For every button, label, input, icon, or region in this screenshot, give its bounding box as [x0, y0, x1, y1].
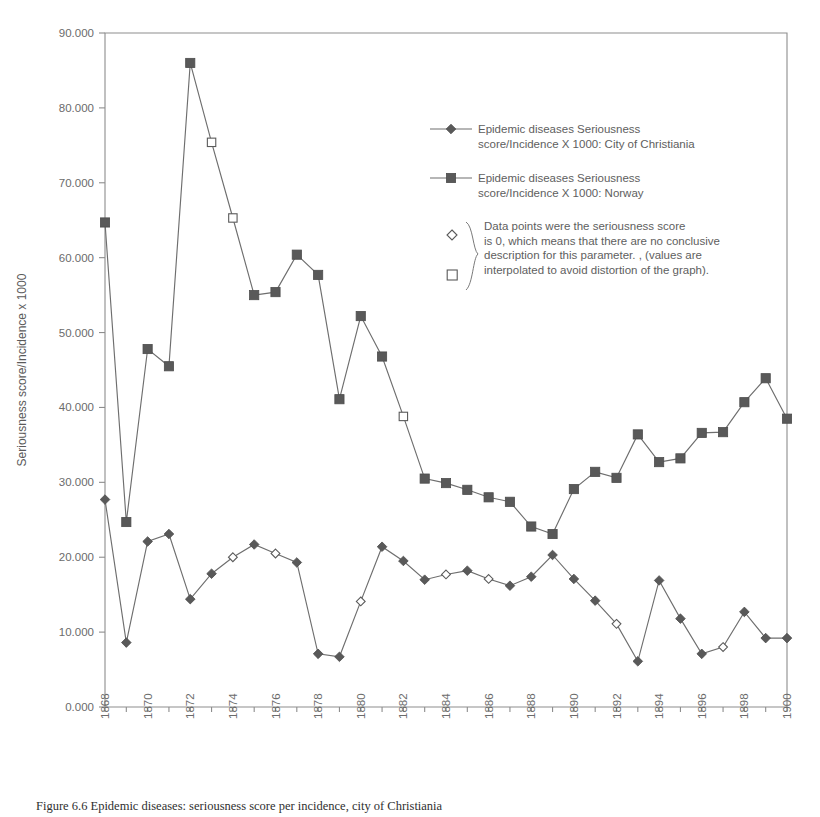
chart-legend: Epidemic diseases Seriousnessscore/Incid… [430, 123, 720, 290]
legend-entry-0: Epidemic diseases Seriousnessscore/Incid… [430, 123, 695, 150]
x-axis-tick-label: 1896 [696, 693, 708, 719]
data-point [313, 649, 323, 659]
y-axis-tick-label: 90.000 [59, 27, 94, 39]
x-axis-tick-label: 1874 [227, 693, 239, 719]
data-point [505, 581, 515, 591]
data-point-interpolated [271, 549, 280, 558]
x-axis-tick-label: 1892 [611, 693, 623, 719]
data-point [292, 250, 301, 259]
y-axis-tick-label: 80.000 [59, 102, 94, 114]
data-point-interpolated [484, 575, 493, 584]
y-axis-tick-label: 0.000 [65, 701, 94, 713]
data-point [122, 638, 132, 648]
data-point [335, 395, 344, 404]
data-point [697, 428, 706, 437]
y-axis-tick-label: 70.000 [59, 177, 94, 189]
data-point [271, 288, 280, 297]
y-axis-tick-label: 60.000 [59, 252, 94, 264]
data-point [100, 218, 109, 227]
x-axis-tick-label: 1890 [568, 693, 580, 719]
data-point [633, 657, 643, 667]
y-axis-tick-label: 30.000 [59, 476, 94, 488]
x-axis-tick-label: 1888 [525, 693, 537, 719]
figure-caption: Figure 6.6 Epidemic diseases: seriousnes… [36, 798, 796, 817]
data-point [420, 474, 429, 483]
data-point [249, 540, 259, 550]
legend-note-line: is 0, which means that there are no conc… [484, 235, 720, 247]
line-chart: 0.00010.00020.00030.00040.00050.00060.00… [0, 0, 820, 790]
figure-root: 0.00010.00020.00030.00040.00050.00060.00… [0, 0, 820, 817]
data-point-interpolated [719, 643, 728, 652]
data-point [527, 522, 536, 531]
data-point [697, 649, 707, 659]
y-axis-tick-label: 50.000 [59, 327, 94, 339]
data-point [164, 362, 173, 371]
y-axis-title: Seriousness score/Incidence x 1000 [15, 273, 29, 466]
legend-entry-1: Epidemic diseases Seriousnessscore/Incid… [430, 172, 644, 199]
y-axis-tick-label: 20.000 [59, 551, 94, 563]
data-point [164, 529, 174, 539]
y-axis-tick-label: 40.000 [59, 401, 94, 413]
x-axis-tick-label: 1880 [355, 693, 367, 719]
x-axis-tick-label: 1900 [781, 693, 793, 719]
x-axis-tick-label: 1876 [270, 693, 282, 719]
data-point [356, 311, 365, 320]
data-point [591, 467, 600, 476]
square-icon [446, 173, 455, 182]
data-point [314, 270, 323, 279]
x-axis-tick-label: 1872 [184, 693, 196, 719]
data-point [761, 374, 770, 383]
legend-label: score/Incidence X 1000: Norway [478, 187, 644, 199]
diamond-icon [446, 124, 456, 134]
data-point [143, 537, 153, 547]
data-point [633, 430, 642, 439]
legend-label: Epidemic diseases Seriousness [478, 172, 641, 184]
hollow-diamond-icon [447, 230, 457, 240]
data-point [100, 495, 110, 505]
data-point-interpolated [399, 412, 407, 420]
x-axis-tick-label: 1886 [483, 693, 495, 719]
data-point-interpolated [229, 214, 237, 222]
x-axis-tick-label: 1870 [142, 693, 154, 719]
x-axis-tick-label: 1878 [312, 693, 324, 719]
series-christiania [100, 495, 792, 666]
legend-note-line: interpolated to avoid distortion of the … [484, 264, 709, 276]
x-axis-tick-label: 1868 [99, 693, 111, 719]
data-point-interpolated [356, 597, 365, 606]
data-point [676, 454, 685, 463]
data-point [463, 485, 472, 494]
data-point [612, 473, 621, 482]
chart-series-group [100, 58, 792, 666]
data-point [250, 291, 259, 300]
data-point [782, 633, 792, 643]
data-point [654, 576, 664, 586]
x-axis-tick-label: 1884 [440, 693, 452, 719]
data-point [484, 493, 493, 502]
x-axis-tick-label: 1898 [738, 693, 750, 719]
legend-note: Data points were the seriousness scoreis… [447, 220, 720, 290]
data-point [718, 428, 727, 437]
data-point [569, 484, 578, 493]
data-point [782, 414, 791, 423]
hollow-square-icon [447, 270, 457, 280]
data-point [377, 542, 387, 552]
data-point [143, 344, 152, 353]
data-point [335, 652, 345, 662]
data-point [655, 458, 664, 467]
data-point [740, 398, 749, 407]
legend-note-line: description for this parameter. , (value… [484, 249, 702, 261]
legend-label: Epidemic diseases Seriousness [478, 123, 641, 135]
data-point [186, 58, 195, 67]
x-axis-tick-label: 1882 [397, 693, 409, 719]
legend-note-line: Data points were the seriousness score [484, 220, 685, 232]
data-point [377, 352, 386, 361]
series-norway [100, 58, 791, 538]
data-point-interpolated [442, 570, 451, 579]
data-point-interpolated [207, 138, 215, 146]
data-point [441, 478, 450, 487]
legend-label: score/Incidence X 1000: City of Christia… [478, 138, 695, 150]
data-point [676, 614, 686, 624]
y-axis-tick-label: 10.000 [59, 626, 94, 638]
data-point [505, 497, 514, 506]
data-point [292, 558, 302, 568]
